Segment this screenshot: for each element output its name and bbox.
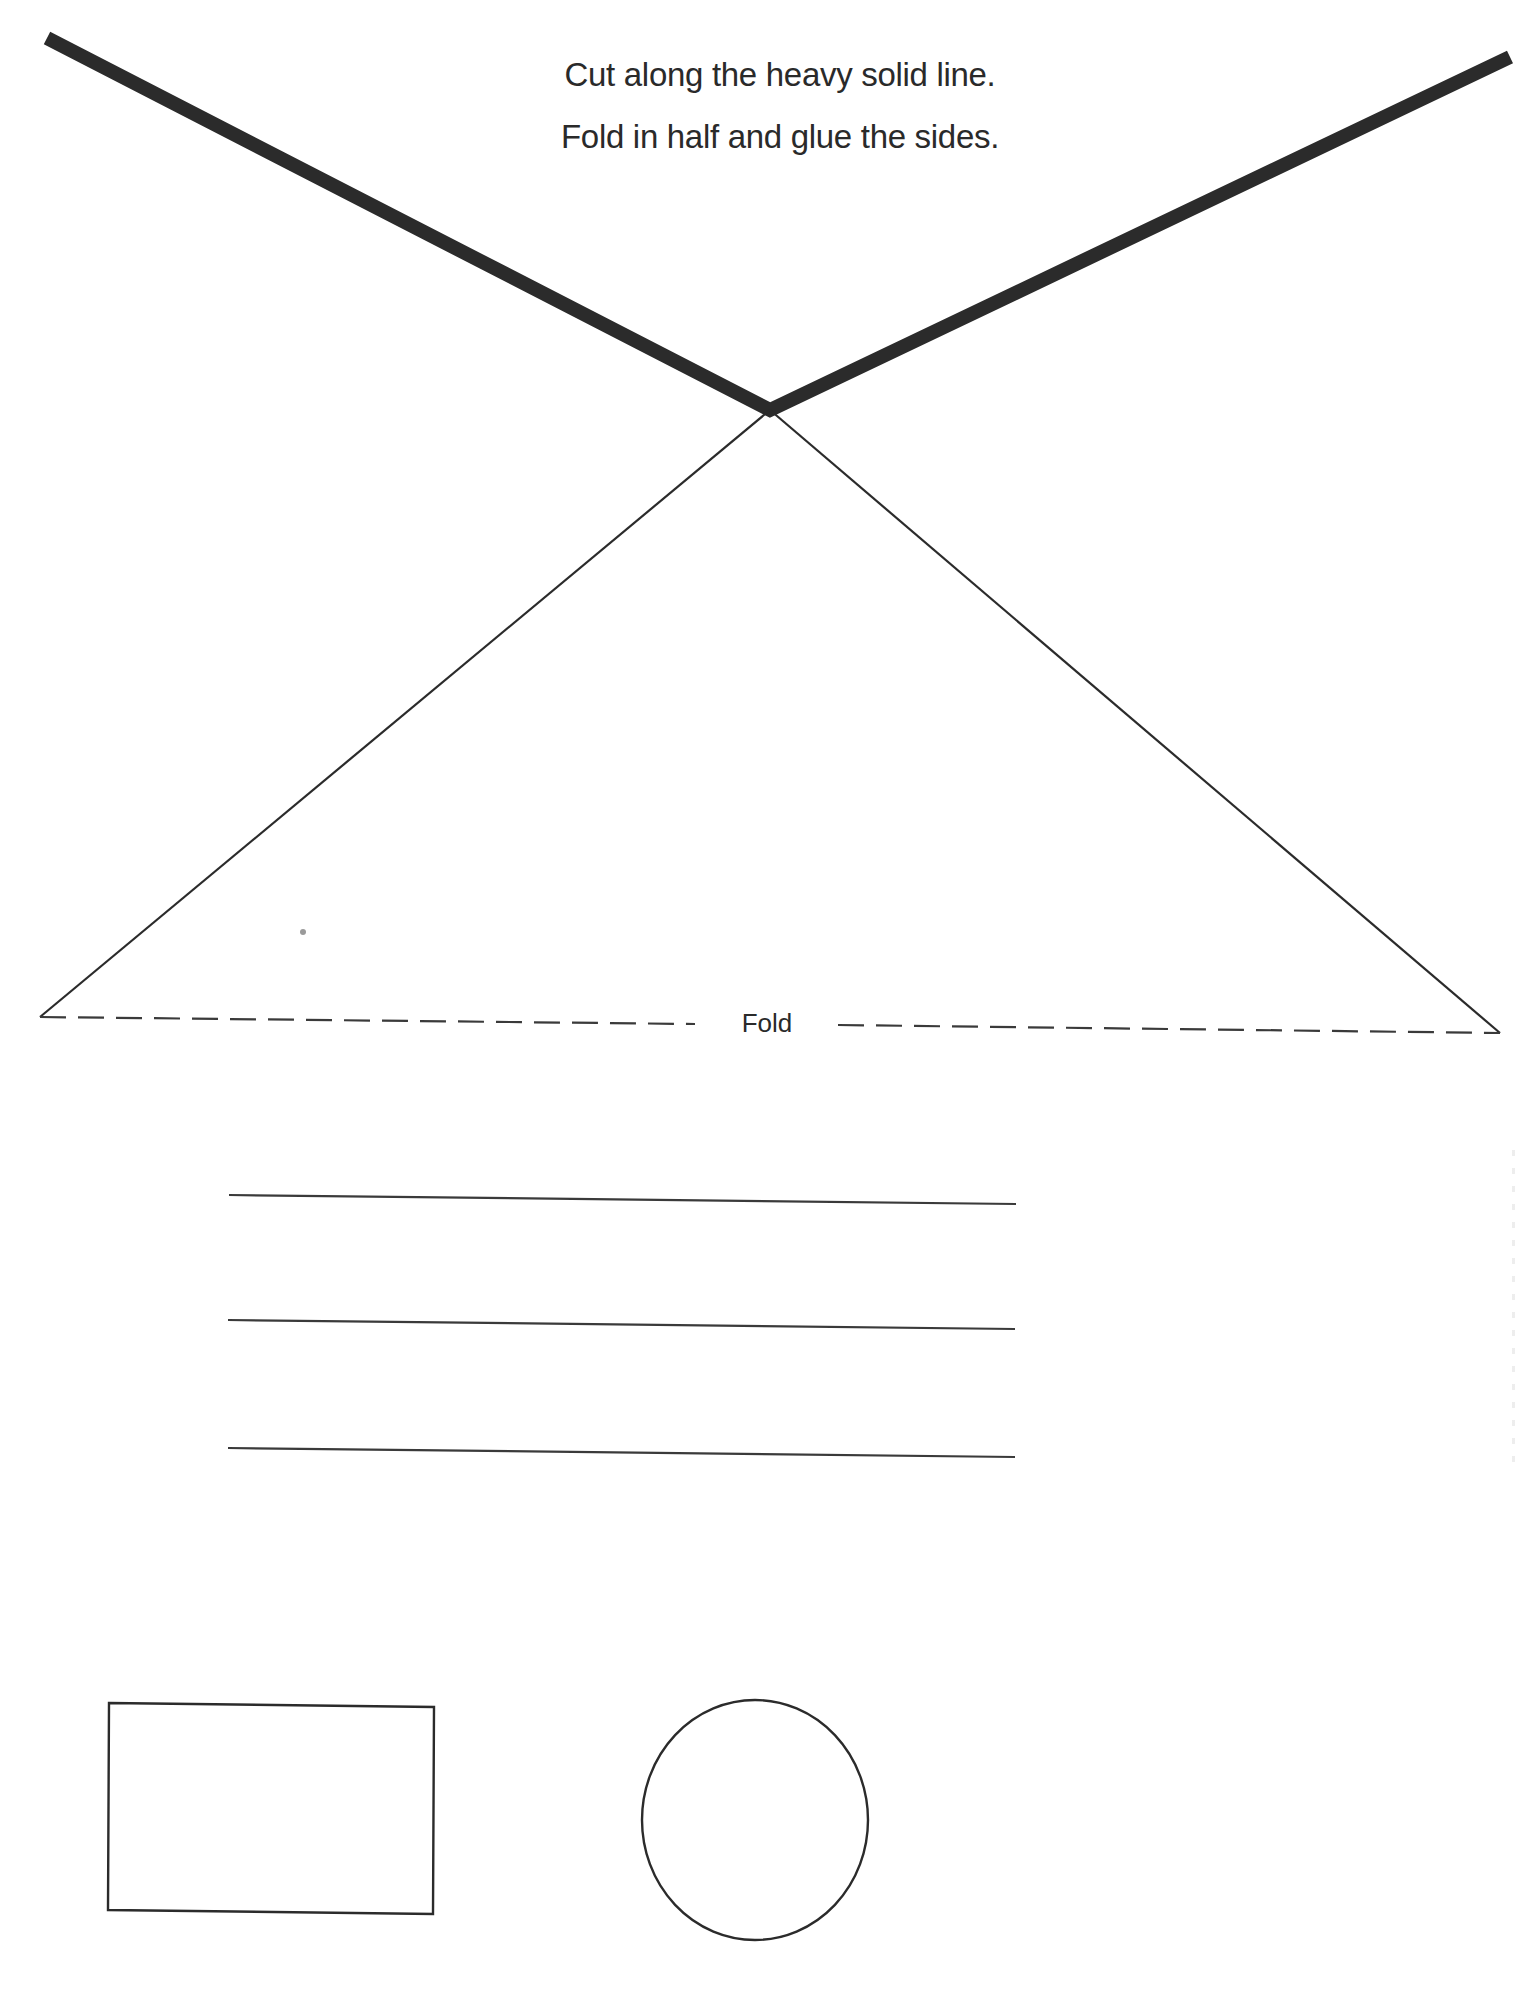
writing-line-1 <box>229 1195 1016 1204</box>
worksheet-page: Cut along the heavy solid line. Fold in … <box>0 0 1520 2014</box>
writing-line-2 <box>228 1320 1015 1329</box>
worksheet-artwork <box>0 0 1520 2014</box>
triangle-left-side <box>40 410 770 1017</box>
scan-speck <box>300 929 306 935</box>
triangle-right-side <box>770 410 1500 1033</box>
writing-line-3 <box>228 1448 1015 1457</box>
instructions: Cut along the heavy solid line. Fold in … <box>480 44 1080 168</box>
oval-shape <box>642 1700 868 1940</box>
fold-label: Fold <box>717 1008 817 1039</box>
fold-line-right <box>838 1025 1500 1033</box>
rectangle-box <box>108 1703 434 1914</box>
instruction-line-2: Fold in half and glue the sides. <box>480 106 1080 168</box>
instruction-line-1: Cut along the heavy solid line. <box>480 44 1080 106</box>
scan-edge-artifact <box>1512 1150 1515 1470</box>
fold-line-left <box>40 1017 695 1024</box>
